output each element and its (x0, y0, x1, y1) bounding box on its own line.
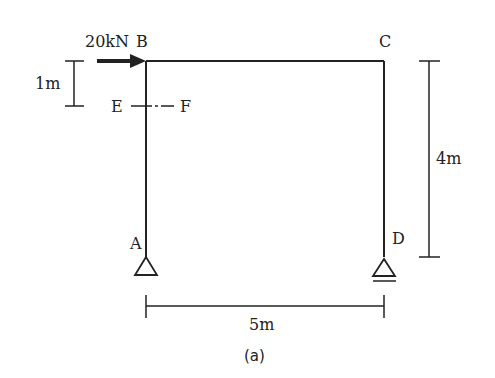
frame-members (146, 61, 384, 257)
arrow-head-icon (130, 54, 146, 68)
node-label-f: F (180, 97, 191, 116)
dim-label-1m: 1m (35, 74, 60, 93)
frame-diagram: 20kN B C 1m E F 4m A D 5m (a) (0, 0, 495, 378)
load-arrow (97, 54, 146, 68)
node-label-a: A (129, 234, 142, 253)
dimension-1m (65, 61, 84, 106)
dim-label-4m: 4m (436, 149, 461, 168)
node-label-c: C (379, 32, 391, 51)
node-label-b: B (136, 32, 148, 51)
load-label: 20kN (85, 32, 129, 51)
dim-label-5m: 5m (249, 315, 274, 334)
pin-support-icon (135, 257, 157, 275)
node-label-d: D (392, 229, 405, 248)
node-label-e: E (111, 97, 123, 116)
roller-support-icon (373, 259, 396, 281)
figure-caption: (a) (244, 347, 265, 365)
